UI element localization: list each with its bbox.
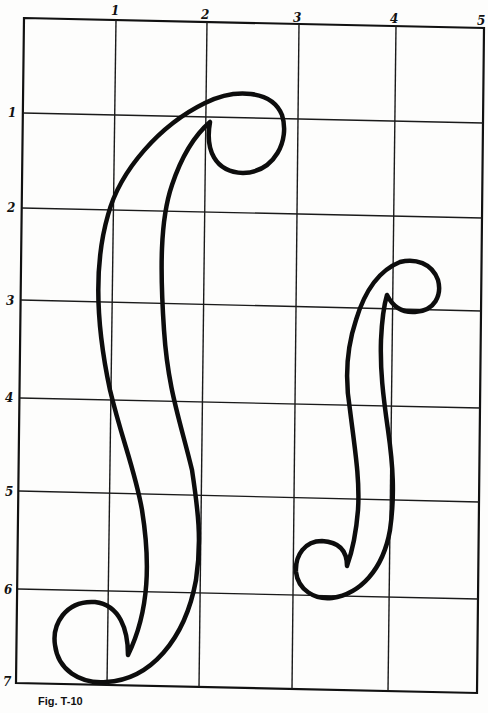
column-label: 4	[390, 12, 398, 26]
row-label: 6	[4, 583, 13, 597]
row-label: 2	[6, 201, 15, 215]
figure-caption: Fig. T-10	[38, 695, 83, 707]
row-label: 7	[3, 675, 12, 689]
row-label: 3	[6, 294, 14, 308]
column-label: 1	[111, 4, 119, 18]
row-label: 4	[5, 391, 13, 405]
small-s-scroll	[296, 261, 439, 599]
column-label: 2	[200, 8, 209, 22]
column-label: 5	[477, 14, 485, 28]
grid-diagram: 1 2 3 4 5 1 2 3 4 5 6 7	[0, 0, 488, 713]
row-label: 5	[5, 485, 13, 499]
grid-rows	[18, 113, 483, 599]
column-labels: 1 2 3 4 5	[111, 4, 485, 28]
row-labels: 1 2 3 4 5 6 7	[3, 106, 16, 689]
grid-frame	[16, 18, 484, 693]
row-label: 1	[8, 106, 16, 120]
column-label: 3	[293, 11, 301, 25]
